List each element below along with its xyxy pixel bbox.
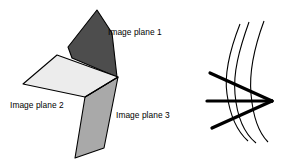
epipolar-line-upper bbox=[210, 73, 272, 101]
figure-canvas bbox=[0, 0, 287, 168]
epipolar-pencil-group bbox=[207, 21, 272, 143]
curve-outer bbox=[251, 21, 268, 142]
image-planes-group bbox=[23, 10, 118, 158]
image-plane-1-label: Image plane 1 bbox=[108, 27, 162, 37]
image-plane-3-label: Image plane 3 bbox=[116, 110, 170, 120]
curve-middle bbox=[235, 22, 256, 143]
figure-container: Image plane 1 Image plane 2 Image plane … bbox=[0, 0, 287, 168]
image-plane-2-label: Image plane 2 bbox=[10, 100, 64, 110]
